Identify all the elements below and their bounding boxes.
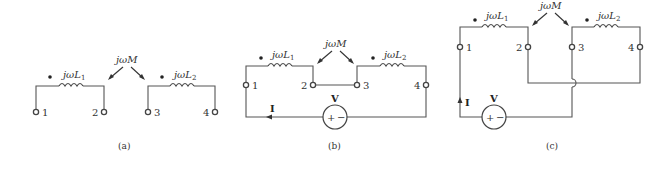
terminal-label-3: 3 (578, 42, 584, 53)
inductor-label-l1: jωL1 (61, 69, 85, 82)
inductor-label-l2: jωL2 (172, 69, 196, 82)
terminal-2 (101, 109, 106, 114)
terminal-2 (525, 44, 530, 49)
terminal-label-1: 1 (466, 42, 472, 53)
polarity-dot-l1 (473, 18, 477, 22)
terminal-3 (569, 44, 574, 49)
wire (83, 86, 104, 109)
terminal-3 (145, 109, 150, 114)
terminal-label-2: 2 (301, 80, 307, 91)
caption-b: (b) (328, 141, 341, 151)
terminal-label-4: 4 (203, 107, 209, 118)
inductor-coil-l1 (59, 84, 83, 87)
current-label: I (465, 97, 470, 108)
inductor-coil-l2 (170, 84, 194, 87)
wire (347, 88, 426, 117)
caption-c: (c) (546, 141, 558, 151)
inductor-label-l2: jωL2 (382, 49, 406, 62)
terminal-label-3: 3 (363, 80, 369, 91)
wire (148, 86, 170, 109)
mutual-label: jωM (538, 0, 562, 11)
inductor-coil-l1 (482, 25, 506, 28)
source-plus: + (327, 112, 335, 123)
terminal-label-4: 4 (628, 42, 634, 53)
polarity-dot-l2 (371, 56, 375, 60)
terminal-label-1: 1 (42, 107, 48, 118)
wire (506, 87, 572, 117)
polarity-dot-l1 (259, 56, 263, 60)
wire (36, 86, 59, 109)
inductor-label-l1: jωL1 (270, 49, 294, 62)
terminal-label-1: 1 (252, 80, 258, 91)
mutual-label: jωM (323, 38, 347, 49)
terminal-1 (457, 44, 462, 49)
panel-a: jωL1 1 2 jωM jωL2 3 4 (a) (33, 54, 217, 151)
source-minus: − (337, 112, 345, 123)
polarity-dot-l2 (585, 18, 589, 22)
source-label: V (489, 93, 498, 104)
terminal-label-3: 3 (154, 107, 160, 118)
current-arrow-icon (458, 97, 463, 103)
terminal-1 (33, 109, 38, 114)
terminal-4 (212, 109, 217, 114)
inductor-label-l2: jωL2 (596, 10, 620, 23)
panel-b: jωL1 jωM jωL2 1 2 3 4 + − V I (b) (243, 38, 428, 151)
terminal-label-4: 4 (414, 80, 420, 91)
inductor-coil-l2 (380, 64, 404, 67)
polarity-dot-l1 (48, 75, 52, 79)
panel-c: jωL1 jωM jωL2 1 2 3 4 + − V (457, 0, 642, 151)
wire (194, 86, 215, 109)
terminal-1 (243, 82, 248, 87)
source-minus: − (496, 112, 504, 123)
inductor-coil-l2 (594, 25, 618, 28)
terminal-label-2: 2 (92, 107, 98, 118)
terminal-3 (354, 82, 359, 87)
wire (246, 88, 323, 117)
terminal-4 (423, 82, 428, 87)
terminal-2 (310, 82, 315, 87)
inductor-coil-l1 (268, 64, 292, 67)
source-plus: + (486, 112, 494, 123)
current-label: I (270, 103, 275, 114)
source-label: V (330, 93, 339, 104)
inductor-label-l1: jωL1 (484, 10, 508, 23)
coupled-inductor-diagram: jωL1 1 2 jωM jωL2 3 4 (a) jωL1 jωM (0, 0, 672, 172)
wire (460, 50, 482, 117)
wire-2-4 (528, 50, 640, 83)
terminal-label-2: 2 (516, 42, 522, 53)
polarity-dot-l2 (160, 75, 164, 79)
terminal-4 (637, 44, 642, 49)
caption-a: (a) (118, 141, 130, 151)
mutual-label: jωM (114, 54, 138, 65)
current-arrow-icon (266, 115, 272, 120)
